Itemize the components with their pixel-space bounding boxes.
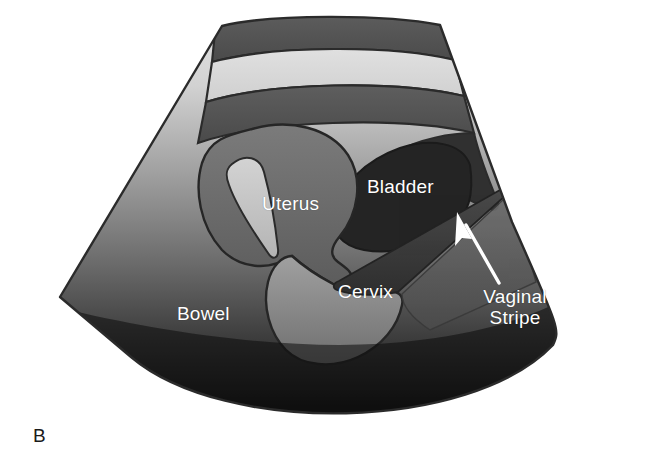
- ultrasound-figure: Uterus Bladder Cervix Bowel Vaginal Stri…: [0, 0, 648, 473]
- panel-letter: B: [33, 425, 46, 447]
- ultrasound-sector-image: [0, 0, 648, 473]
